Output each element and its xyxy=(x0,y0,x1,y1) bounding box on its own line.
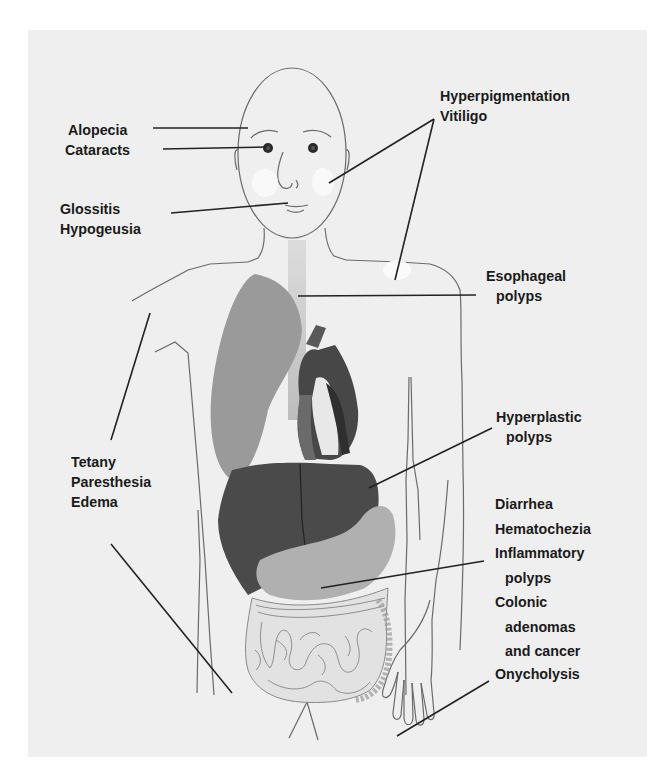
label-tetany-paresthesia-edema: Tetany Paresthesia Edema xyxy=(71,452,151,512)
head xyxy=(235,68,349,238)
vitiligo-patches xyxy=(252,168,411,280)
label-cataracts: Cataracts xyxy=(65,140,130,160)
label-esophageal-polyps: Esophageal polyps xyxy=(486,266,566,306)
label-hyperpigmentation-vitiligo: Hyperpigmentation Vitiligo xyxy=(440,86,570,126)
heart xyxy=(297,325,358,460)
label-gi-manifestations: Diarrhea Hematochezia Inflammatory polyp… xyxy=(495,492,591,664)
label-hyperplastic-polyps: Hyperplastic polyps xyxy=(496,407,582,447)
diagram-panel: Alopecia Cataracts Glossitis Hypogeusia … xyxy=(28,30,647,757)
label-glossitis-hypogeusia: Glossitis Hypogeusia xyxy=(60,199,141,239)
label-alopecia: Alopecia xyxy=(68,120,127,140)
eyes xyxy=(263,143,318,153)
label-onycholysis: Onycholysis xyxy=(495,664,580,684)
intestines xyxy=(245,588,389,703)
